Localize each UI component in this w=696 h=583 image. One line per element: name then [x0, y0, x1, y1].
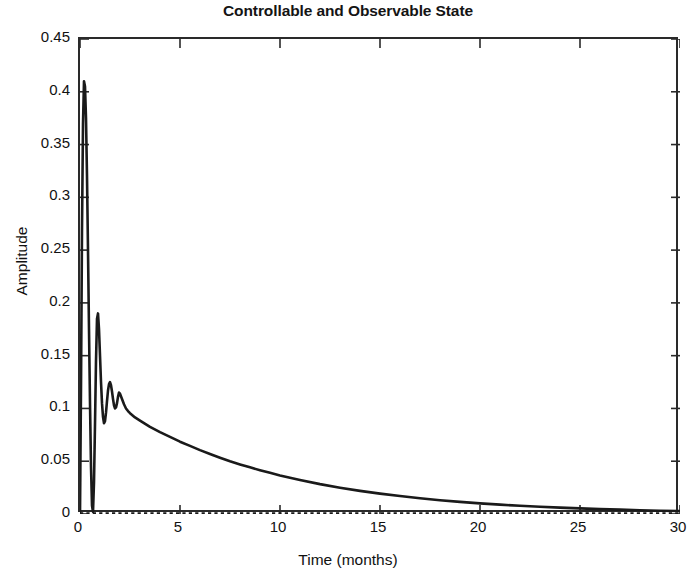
x-tick-label: 0 — [38, 519, 118, 534]
data-series-layer — [80, 81, 680, 514]
x-tick-label: 10 — [238, 519, 318, 534]
plot-canvas — [80, 39, 680, 514]
y-tick-label: 0.25 — [0, 240, 78, 255]
chart-title: Controllable and Observable State — [0, 2, 696, 20]
series-line-state-response — [80, 81, 680, 514]
x-axis-label: Time (months) — [0, 551, 696, 569]
y-tick-label: 0.45 — [0, 29, 78, 44]
x-tick-label: 15 — [338, 519, 418, 534]
plot-area — [78, 37, 678, 512]
y-tick-label: 0.4 — [0, 82, 78, 97]
y-tick-label: 0.2 — [0, 293, 78, 308]
x-tick-label: 30 — [638, 519, 696, 534]
y-tick-label: 0.1 — [0, 398, 78, 413]
y-tick-label: 0.35 — [0, 135, 78, 150]
y-tick-label: 0.3 — [0, 187, 78, 202]
chart-figure: Controllable and Observable State Amplit… — [0, 0, 696, 583]
x-tick-label: 20 — [438, 519, 518, 534]
x-tick-label: 25 — [538, 519, 618, 534]
y-tick-label: 0 — [0, 504, 78, 519]
axis-tick-marks — [80, 39, 680, 514]
x-tick-label: 5 — [138, 519, 218, 534]
y-tick-label: 0.15 — [0, 346, 78, 361]
y-tick-label: 0.05 — [0, 451, 78, 466]
